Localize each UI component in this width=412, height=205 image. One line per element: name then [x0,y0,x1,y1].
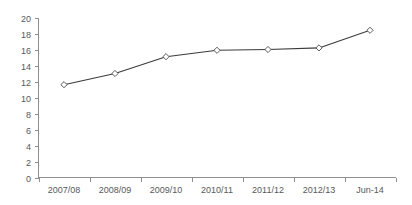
x-axis-ticks [40,178,397,182]
x-tick-label: 2009/10 [150,185,183,195]
y-axis-tick-labels: 02468101214161820 [21,14,31,184]
data-point-marker [367,27,373,33]
y-tick-label: 20 [21,14,31,24]
x-axis: 2007/082008/092009/102010/112011/122012/… [39,178,397,196]
data-point-marker [316,45,322,51]
chart-canvas: 02468101214161820 2007/082008/092009/102… [0,0,412,205]
y-tick-label: 12 [21,78,31,88]
data-point-marker [61,82,67,88]
x-tick-label: 2011/12 [252,185,284,195]
x-tick-label: Jun-14 [356,185,384,195]
x-tick-label: 2007/08 [48,185,81,195]
y-tick-label: 8 [26,110,31,120]
x-tick-label: 2012/13 [303,185,336,195]
data-point-marker [112,70,118,76]
y-axis: 02468101214161820 [21,14,39,184]
y-tick-label: 0 [26,174,31,184]
y-tick-label: 18 [21,30,31,40]
data-point-marker [265,46,271,52]
x-axis-tick-labels: 2007/082008/092009/102010/112011/122012/… [48,185,384,195]
y-tick-label: 4 [26,142,31,152]
x-tick-label: 2010/11 [201,185,233,195]
data-point-marker [214,47,220,53]
y-tick-label: 2 [26,158,31,168]
data-series [61,27,373,88]
y-tick-label: 6 [26,126,31,136]
series-markers [61,27,373,88]
line-chart: 02468101214161820 2007/082008/092009/102… [0,0,412,205]
y-tick-label: 10 [21,94,31,104]
data-point-marker [163,54,169,60]
series-line [64,30,370,84]
y-axis-ticks [35,19,39,179]
y-tick-label: 14 [21,62,31,72]
x-tick-label: 2008/09 [99,185,132,195]
y-tick-label: 16 [21,46,31,56]
